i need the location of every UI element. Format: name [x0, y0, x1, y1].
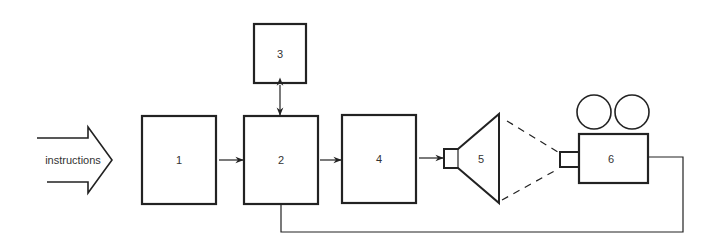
view-cone-dashed: [502, 121, 558, 200]
block-5-screen: 5: [444, 114, 499, 203]
block-6-camera: 6: [560, 95, 649, 183]
block-diagram: instructions 1 2 3 4: [0, 0, 715, 248]
block-3-label: 3: [277, 48, 283, 60]
camera-reel-right-icon: [615, 95, 649, 129]
block-4: 4: [342, 115, 416, 203]
block-3: 3: [254, 24, 306, 83]
diagram-canvas: instructions 1 2 3 4: [0, 0, 715, 248]
camera-reel-left-icon: [577, 95, 611, 129]
instructions-arrow: instructions: [37, 127, 112, 193]
instructions-label: instructions: [45, 154, 101, 166]
block-2-label: 2: [278, 154, 284, 166]
block-2: 2: [244, 116, 318, 204]
block-1: 1: [142, 116, 216, 204]
block-5-label: 5: [478, 153, 484, 165]
camera-lens-icon: [560, 152, 579, 167]
block-6-label: 6: [608, 153, 614, 165]
block-1-label: 1: [176, 154, 182, 166]
block-4-label: 4: [376, 153, 382, 165]
